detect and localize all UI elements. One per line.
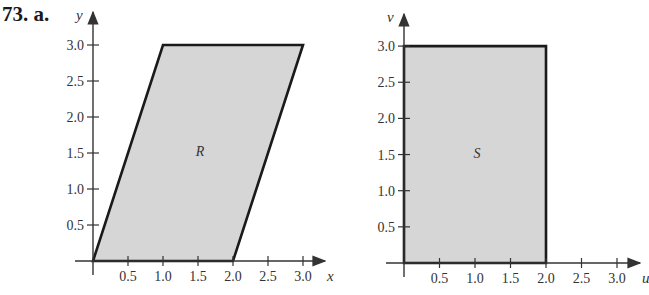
y-tick-label: 2.0 — [378, 111, 396, 126]
x-tick-label: 2.0 — [224, 269, 242, 284]
chart-region-r: 0.51.01.52.02.53.00.51.01.52.02.53.0xyR — [67, 7, 335, 284]
x-tick-label: 0.5 — [119, 269, 137, 284]
y-tick-label: 1.0 — [378, 184, 396, 199]
region-label: R — [195, 144, 205, 159]
charts-canvas: 0.51.01.52.02.53.00.51.01.52.02.53.0xyR … — [0, 0, 649, 295]
chart-region-s: 0.51.01.52.02.53.00.51.01.52.02.53.0uvS — [378, 9, 649, 286]
x-tick-label: 2.5 — [259, 269, 277, 284]
x-tick-label: 2.5 — [573, 271, 591, 286]
y-axis-label: v — [387, 9, 394, 25]
region-label: S — [474, 146, 481, 161]
y-tick-label: 0.5 — [67, 218, 85, 233]
y-tick-label: 0.5 — [378, 220, 396, 235]
y-axis-label: y — [74, 7, 83, 23]
x-tick-label: 0.5 — [431, 271, 449, 286]
y-tick-label: 2.0 — [67, 110, 85, 125]
x-tick-label: 3.0 — [294, 269, 312, 284]
y-tick-label: 2.5 — [67, 74, 85, 89]
x-tick-label: 1.0 — [154, 269, 172, 284]
x-axis-label: u — [642, 270, 649, 286]
y-tick-label: 1.5 — [67, 146, 85, 161]
x-tick-label: 1.5 — [189, 269, 207, 284]
y-tick-label: 3.0 — [378, 39, 396, 54]
x-tick-label: 2.0 — [537, 271, 555, 286]
x-tick-label: 1.0 — [466, 271, 484, 286]
y-tick-label: 1.0 — [67, 182, 85, 197]
x-axis-label: x — [326, 268, 334, 284]
y-tick-label: 1.5 — [378, 148, 396, 163]
x-tick-label: 1.5 — [502, 271, 520, 286]
y-tick-label: 3.0 — [67, 38, 85, 53]
y-tick-label: 2.5 — [378, 75, 396, 90]
x-tick-label: 3.0 — [608, 271, 626, 286]
